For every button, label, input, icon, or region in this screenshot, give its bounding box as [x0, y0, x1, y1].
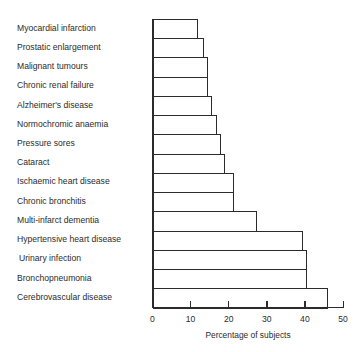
horizontal-bar-chart: Myocardial infarctionProstatic enlargeme… [0, 0, 364, 352]
category-label: Chronic renal failure [17, 80, 94, 90]
bar [153, 96, 212, 117]
bar [153, 231, 303, 252]
category-label: Urinary infection [19, 253, 81, 263]
bar [153, 192, 235, 213]
bar [153, 38, 204, 59]
bar [153, 19, 199, 40]
bar [153, 173, 235, 194]
x-tick-label: 40 [300, 314, 310, 324]
x-tick [152, 301, 153, 308]
bar [153, 269, 307, 290]
x-tick [304, 301, 305, 308]
category-label: Ischaemic heart disease [17, 176, 110, 186]
bar [153, 57, 208, 78]
category-label: Chronic bronchitis [17, 196, 86, 206]
x-tick [190, 301, 191, 308]
bar [153, 134, 222, 155]
x-tick-label: 20 [224, 314, 234, 324]
bar [153, 115, 218, 136]
bar [153, 288, 328, 309]
bar [153, 250, 307, 271]
x-tick-label: 0 [150, 314, 155, 324]
x-tick [266, 301, 267, 308]
bar [153, 211, 258, 232]
x-tick-label: 30 [262, 314, 272, 324]
x-axis-title: Percentage of subjects [205, 330, 290, 340]
category-label: Cerebrovascular disease [17, 292, 112, 302]
bar [153, 154, 225, 175]
category-label: Prostatic enlargement [17, 42, 101, 52]
category-label: Pressure sores [17, 138, 75, 148]
y-axis-line [152, 19, 153, 308]
category-label: Hypertensive heart disease [17, 234, 121, 244]
category-label: Malignant tumours [17, 61, 88, 71]
x-tick-label: 50 [338, 314, 348, 324]
x-tick [228, 301, 229, 308]
category-label: Myocardial infarction [17, 23, 96, 33]
x-tick-label: 10 [186, 314, 196, 324]
x-tick [343, 301, 344, 308]
category-label: Alzheimer's disease [17, 100, 93, 110]
category-label: Bronchopneumonia [17, 273, 92, 283]
bar [153, 77, 208, 98]
category-label: Normochromic anaemia [17, 119, 108, 129]
category-label: Multi-infarct dementia [17, 215, 99, 225]
x-axis-line [152, 307, 344, 308]
category-label: Cataract [17, 157, 49, 167]
